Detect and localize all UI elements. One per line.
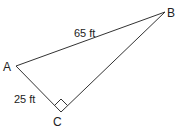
side-ab-length: 65 ft — [74, 27, 95, 39]
vertex-label-b: B — [167, 6, 175, 20]
side-ac-length: 25 ft — [14, 93, 35, 105]
vertex-label-c: C — [53, 115, 62, 129]
right-angle-marker — [55, 99, 68, 106]
triangle-figure: A B C 65 ft 25 ft — [0, 0, 180, 132]
triangle-diagram: A B C 65 ft 25 ft — [0, 0, 180, 132]
vertex-label-a: A — [3, 60, 11, 74]
